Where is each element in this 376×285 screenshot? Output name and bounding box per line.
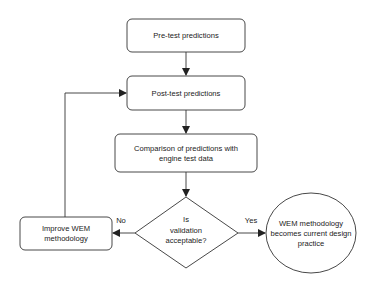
node-decision: Is validation acceptable? — [135, 197, 238, 268]
edge-label-no: No — [116, 216, 126, 225]
outcome-label-line1: WEM methodology — [279, 219, 343, 228]
decision-label-line2: validation — [170, 226, 202, 235]
flowchart-diagram: No Yes Pre-test predictions Post-test pr… — [0, 0, 376, 285]
improve-label-line1: Improve WEM — [42, 224, 90, 233]
pretest-label: Pre-test predictions — [153, 31, 219, 40]
decision-label-line1: Is — [183, 215, 189, 224]
comparison-label-line1: Comparison of predictions with — [134, 144, 238, 153]
decision-label-line3: acceptable? — [166, 236, 207, 245]
outcome-label-line3: practice — [298, 239, 325, 248]
node-pretest-predictions: Pre-test predictions — [127, 19, 245, 52]
node-comparison: Comparison of predictions with engine te… — [115, 134, 257, 172]
node-outcome: WEM methodology becomes current design p… — [266, 193, 356, 273]
edge-label-yes: Yes — [245, 216, 258, 225]
comparison-label-line2: engine test data — [159, 154, 214, 163]
node-posttest-predictions: Post-test predictions — [127, 76, 245, 110]
outcome-label-line2: becomes current design — [270, 229, 351, 238]
improve-label-line2: methodology — [44, 234, 88, 243]
posttest-label: Post-test predictions — [152, 89, 221, 98]
comparison-box — [115, 134, 257, 172]
node-improve-wem: Improve WEM methodology — [20, 217, 112, 250]
